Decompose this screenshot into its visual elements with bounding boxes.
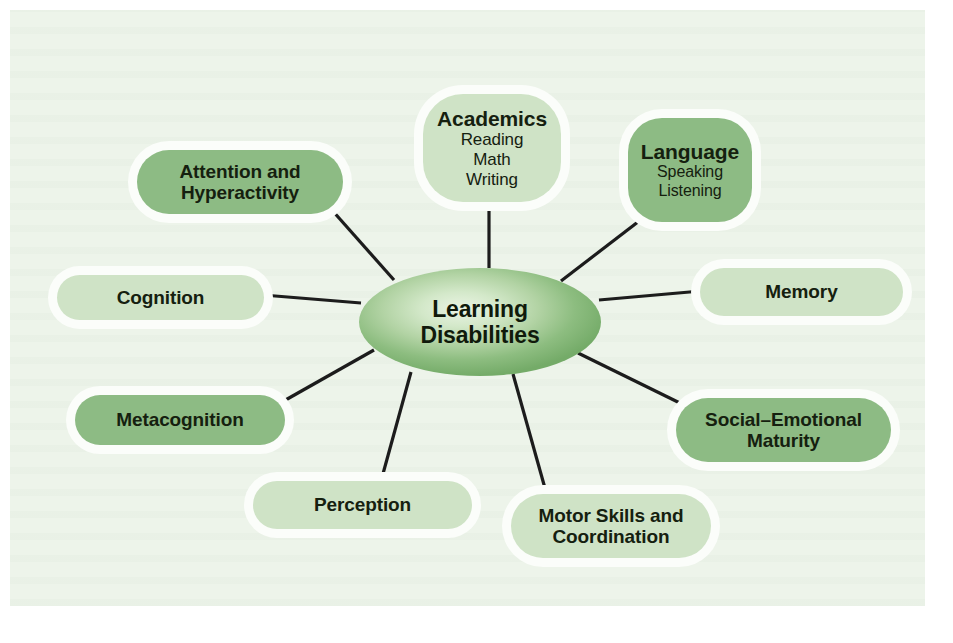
node-subitem-language-0: Speaking	[657, 163, 723, 180]
node-title-perception: Perception	[314, 494, 411, 515]
node-title-memory: Memory	[765, 281, 837, 302]
hub-label-line1: Learning	[432, 296, 528, 322]
node-sublist-language: SpeakingListening	[657, 163, 723, 200]
node-subitem-academics-0: Reading	[461, 130, 524, 149]
node-title-social-emotional-maturity: Social–EmotionalMaturity	[705, 409, 862, 452]
edge-cognition	[263, 295, 361, 303]
hub-label-line2: Disabilities	[420, 322, 539, 348]
node-language[interactable]: LanguageSpeakingListening	[628, 118, 752, 222]
hub-node-learning-disabilities[interactable]: Learning Disabilities	[359, 268, 601, 376]
edge-memory	[599, 291, 701, 300]
node-social-emotional-maturity[interactable]: Social–EmotionalMaturity	[676, 398, 891, 462]
node-subitem-language-1: Listening	[658, 182, 721, 199]
node-title-motor-skills-and-coordination: Motor Skills andCoordination	[538, 505, 683, 548]
edge-social	[578, 353, 688, 407]
node-sublist-academics: ReadingMathWriting	[461, 130, 524, 189]
node-motor-skills-and-coordination[interactable]: Motor Skills andCoordination	[511, 494, 711, 558]
node-title-cognition: Cognition	[117, 287, 205, 308]
edge-perception	[381, 372, 411, 481]
figure-root: Learning Disabilities AcademicsReadingMa…	[0, 0, 953, 643]
node-subitem-academics-2: Writing	[466, 170, 518, 189]
node-title-academics: Academics	[437, 107, 547, 131]
hub-label: Learning Disabilities	[420, 296, 539, 348]
node-academics[interactable]: AcademicsReadingMathWriting	[423, 94, 561, 202]
node-metacognition[interactable]: Metacognition	[75, 395, 285, 445]
edge-metacog	[282, 350, 374, 402]
edge-attention	[331, 209, 394, 280]
node-title-language: Language	[641, 140, 739, 164]
edge-motor	[513, 374, 548, 499]
node-memory[interactable]: Memory	[700, 268, 903, 316]
node-perception[interactable]: Perception	[253, 481, 472, 529]
node-cognition[interactable]: Cognition	[57, 275, 264, 320]
edge-language	[561, 215, 647, 281]
node-title-attention-and-hyperactivity: Attention andHyperactivity	[179, 161, 300, 204]
node-attention-and-hyperactivity[interactable]: Attention andHyperactivity	[137, 150, 343, 214]
node-title-metacognition: Metacognition	[116, 409, 243, 430]
node-subitem-academics-1: Math	[473, 150, 510, 169]
